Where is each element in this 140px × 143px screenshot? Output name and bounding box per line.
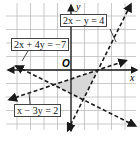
y-axis-label: y [76,1,80,12]
line-l2 [16,66,136,126]
leader-line-l3 [29,93,30,104]
label-2x-minus-y-eq-4: 2x − y = 4 [60,14,107,27]
x-axis-label: x [130,72,134,83]
origin-label: O [62,58,70,69]
label-2x-plus-4y-eq-neg7: 2x + 4y = −7 [11,38,69,51]
leader-line-l2 [22,51,28,61]
label-x-minus-3y-eq-2: x − 3y = 2 [14,104,61,117]
